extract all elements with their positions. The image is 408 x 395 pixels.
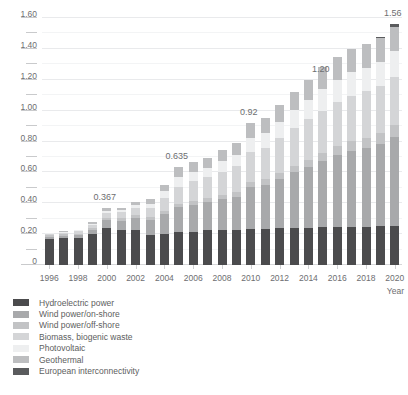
bar-segment: [275, 105, 284, 122]
bar-segment: [290, 92, 299, 110]
bar-segment: [203, 168, 212, 178]
bar-segment: [347, 49, 356, 72]
x-axis-label: 2006: [184, 273, 203, 283]
bar-segment: [203, 158, 212, 168]
bar-segment: [45, 239, 54, 265]
legend-item[interactable]: European interconnectivity: [13, 365, 139, 376]
y-axis-label: 0.60: [20, 164, 37, 173]
bar-segment: [246, 187, 255, 229]
bar[interactable]: [131, 202, 140, 265]
bar-segment: [333, 155, 342, 227]
legend-item[interactable]: Photovoltaic: [13, 343, 139, 354]
legend-item[interactable]: Hydroelectric power: [13, 297, 139, 308]
bar-segment: [232, 155, 241, 167]
bar-segment: [290, 110, 299, 128]
bar[interactable]: [218, 150, 227, 265]
bar-segment: [117, 230, 126, 265]
bar-segment: [390, 226, 399, 265]
y-axis-minor-tick: [26, 218, 37, 219]
legend-swatch-icon: [13, 299, 29, 306]
bar-segment: [102, 220, 111, 228]
y-axis-minor-tick: [26, 63, 37, 64]
bar[interactable]: [246, 123, 255, 265]
bar-segment: [74, 238, 83, 265]
x-axis-tick: [308, 265, 309, 269]
bar[interactable]: [174, 167, 183, 265]
bar[interactable]: [362, 44, 371, 266]
x-axis-label: 2004: [155, 273, 174, 283]
bar-segment: [304, 228, 313, 265]
bar-segment: [333, 146, 342, 155]
bar[interactable]: [117, 208, 126, 265]
bar[interactable]: [146, 199, 155, 265]
bar-value-label: 0.92: [240, 107, 258, 117]
bar[interactable]: [275, 105, 284, 265]
bar-segment: [333, 57, 342, 79]
bar-segment: [203, 177, 212, 198]
legend-item[interactable]: Geothermal: [13, 354, 139, 365]
bar-segment: [102, 228, 111, 265]
bar-segment: [304, 167, 313, 228]
bar[interactable]: [376, 37, 385, 265]
bar-segment: [160, 198, 169, 211]
bar-segment: [174, 167, 183, 177]
bar-segment: [362, 91, 371, 137]
bar-segment: [390, 27, 399, 51]
x-axis-label: 2002: [126, 273, 145, 283]
bar-segment: [203, 230, 212, 265]
bar-segment: [347, 151, 356, 227]
bar[interactable]: [390, 24, 399, 265]
bar[interactable]: [102, 208, 111, 265]
legend-swatch-icon: [13, 345, 29, 352]
x-axis-tick: [107, 265, 108, 269]
legend-swatch-icon: [13, 322, 29, 329]
bar-segment: [318, 111, 327, 153]
bar[interactable]: [318, 67, 327, 265]
bar-segment: [131, 218, 140, 230]
bar-segment: [290, 128, 299, 166]
bar-segment: [261, 229, 270, 265]
legend-item[interactable]: Wind power/on-shore: [13, 308, 139, 319]
bar-segment: [390, 137, 399, 227]
bar-segment: [59, 238, 68, 265]
bar[interactable]: [203, 158, 212, 265]
bar-segment: [304, 119, 313, 159]
legend-label: Geothermal: [39, 355, 83, 365]
legend-label: Hydroelectric power: [39, 298, 114, 308]
bar-segment: [232, 230, 241, 265]
bar[interactable]: [160, 185, 169, 265]
legend-swatch-icon: [13, 333, 29, 340]
bar[interactable]: [45, 233, 54, 265]
bar-segment: [88, 234, 97, 265]
bar-segment: [232, 143, 241, 155]
legend-item[interactable]: Biomass, biogenic waste: [13, 331, 139, 342]
bar-segment: [376, 226, 385, 265]
bar-segment: [347, 227, 356, 265]
x-axis-label: 2018: [357, 273, 376, 283]
bar[interactable]: [74, 230, 83, 265]
bar-segment: [189, 162, 198, 172]
bar-segment: [218, 161, 227, 171]
bar-segment: [390, 51, 399, 77]
bar-segment: [362, 227, 371, 265]
bar[interactable]: [347, 49, 356, 265]
bar[interactable]: [189, 162, 198, 265]
bar[interactable]: [59, 231, 68, 265]
bar-segment: [189, 205, 198, 232]
x-axis-tick: [280, 265, 281, 269]
y-axis-label: 1.00: [20, 102, 37, 111]
bar[interactable]: [88, 222, 97, 265]
bar-segment: [390, 77, 399, 125]
bar-segment: [218, 172, 227, 195]
legend-item[interactable]: Wind power/off-shore: [13, 320, 139, 331]
bar[interactable]: [261, 118, 270, 265]
bar-segment: [304, 100, 313, 120]
x-axis-tick: [136, 265, 137, 269]
bar[interactable]: [333, 57, 342, 265]
bar[interactable]: [304, 80, 313, 265]
bar[interactable]: [290, 92, 299, 265]
bar-segment: [246, 229, 255, 265]
y-axis-minor-tick: [26, 125, 37, 126]
bar[interactable]: [232, 143, 241, 265]
x-axis-tick: [222, 265, 223, 269]
